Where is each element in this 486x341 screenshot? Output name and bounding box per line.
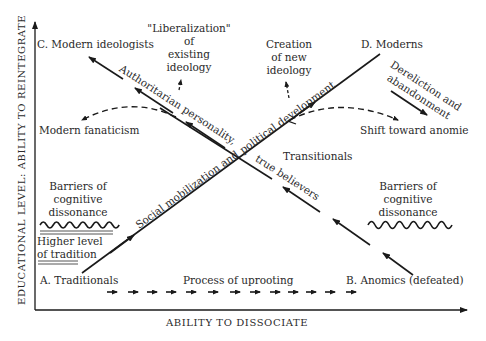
label-barriers-right: Barriers of cognitive dissonance (368, 180, 448, 219)
label-barriers-left: Barriers of cognitive dissonance (38, 180, 118, 219)
label-creation-new-ideology: Creation of new ideology (254, 38, 324, 77)
label-modern-fanaticism: Modern fanaticism (39, 124, 139, 137)
label-c-modern-ideologists: C. Modern ideologists (37, 38, 154, 51)
diagram-canvas (0, 0, 486, 341)
label-liberalization: "Liberalization" of existing ideology (143, 22, 235, 74)
x-axis-label: ABILITY TO DISSOCIATE (166, 316, 308, 329)
y-axis-label: EDUCATIONAL LEVEL: ABILITY TO REINTEGRAT… (15, 15, 28, 305)
barrier-wave-left (40, 222, 119, 234)
creation-arrow (286, 82, 289, 98)
label-transitionals: Transitionals (283, 150, 352, 163)
tradition-underline (38, 261, 78, 264)
label-process-uprooting: Process of uprooting (183, 274, 293, 287)
barrier-wave-right (368, 222, 452, 229)
liberalization-arrow (179, 80, 181, 90)
label-b-anomics: B. Anomics (defeated) (346, 274, 464, 287)
label-higher-tradition: Higher level of tradition (37, 235, 103, 261)
label-a-traditionals: A. Traditionals (40, 274, 118, 287)
path-anomics-to-ideologists (89, 57, 413, 275)
label-d-moderns: D. Moderns (361, 38, 423, 51)
label-shift-toward-anomie: Shift toward anomie (360, 124, 469, 137)
